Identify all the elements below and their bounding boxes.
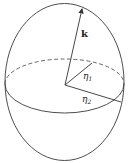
eta1-label: η1 (83, 71, 92, 82)
equator-back-arc (5, 59, 124, 84)
eta2-vector (65, 85, 121, 102)
ellipsoid-outline (5, 4, 124, 161)
equator-front-arc (5, 84, 124, 113)
ellipsoid-diagram: k η1 η2 (0, 0, 129, 163)
k-label: k (81, 28, 89, 39)
eta2-label: η2 (82, 94, 91, 105)
